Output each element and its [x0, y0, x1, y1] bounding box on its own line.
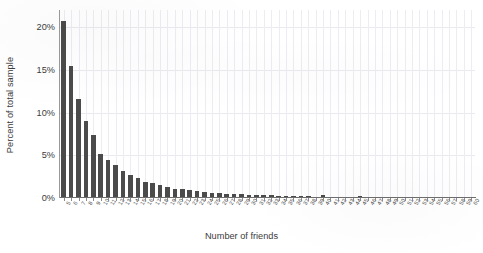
x-axis-title: Number of friends: [0, 231, 483, 241]
bar: [91, 135, 96, 198]
bar: [69, 66, 74, 198]
y-axis-tick-label: 20%: [37, 22, 55, 32]
bar: [121, 171, 126, 198]
bar-chart: Percent of total sample 0%5%10%15%20% 56…: [0, 0, 483, 253]
bar: [113, 165, 118, 198]
x-axis-tick-mark: [167, 198, 168, 201]
x-axis-tick-label: 5: [65, 200, 72, 206]
y-axis-tick-label: 15%: [37, 65, 55, 75]
x-axis-tick-labels: 5678910111213141516171819202122232425262…: [60, 198, 475, 226]
x-axis-tick-label: 7: [80, 200, 87, 206]
bar: [150, 183, 155, 198]
x-axis-tick-mark: [130, 198, 131, 201]
plot-area: [60, 10, 475, 198]
x-axis-tick-mark: [330, 198, 331, 201]
x-axis-tick-label: 8: [87, 200, 94, 206]
x-axis-tick-mark: [93, 198, 94, 201]
x-axis-tick-mark: [456, 198, 457, 201]
y-axis-title-text: Percent of total sample: [5, 57, 15, 153]
bar: [143, 182, 148, 198]
x-axis-line: [60, 197, 476, 198]
x-axis-tick-mark: [345, 198, 346, 201]
bar: [84, 121, 89, 198]
y-axis-line: [59, 10, 60, 198]
x-axis-tick-mark: [419, 198, 420, 201]
x-axis-tick-mark: [293, 198, 294, 201]
bar: [136, 178, 141, 198]
bar: [106, 160, 111, 198]
bar: [98, 154, 103, 198]
y-axis-tick-label: 0%: [42, 193, 55, 203]
x-axis-tick-mark: [256, 198, 257, 201]
bar-series: [60, 10, 475, 198]
y-axis-tick-label: 5%: [42, 150, 55, 160]
x-axis-tick-label: 60: [472, 198, 480, 206]
bar: [128, 175, 133, 198]
x-axis-tick-mark: [382, 198, 383, 201]
bar: [76, 99, 81, 198]
y-axis-title: Percent of total sample: [0, 0, 20, 210]
bar: [61, 21, 66, 198]
x-axis-tick-mark: [219, 198, 220, 201]
x-axis-tick-label: 6: [72, 200, 79, 206]
y-axis-tick-labels: 0%5%10%15%20%: [20, 0, 58, 253]
y-axis-tick-label: 10%: [37, 108, 55, 118]
x-axis-tick-label: 9: [95, 200, 102, 206]
